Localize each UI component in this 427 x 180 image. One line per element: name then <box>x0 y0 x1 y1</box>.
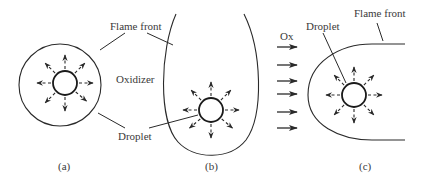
flame-front-envelope <box>308 44 405 140</box>
panel-a <box>19 44 101 126</box>
panel-b <box>164 14 259 155</box>
panel-c <box>277 23 405 140</box>
label-flame-front-ab: Flame front <box>110 21 162 32</box>
droplet-a <box>53 71 77 95</box>
flame-front-sphere <box>19 44 101 126</box>
label-droplet-c: Droplet <box>306 21 340 32</box>
label-droplet-ab: Droplet <box>118 131 152 142</box>
caption-c: (c) <box>359 161 371 172</box>
droplet-combustion-diagram: Flame front Oxidizer Droplet Flame front… <box>0 0 427 180</box>
droplet-c <box>342 83 366 107</box>
caption-b: (b) <box>205 161 218 172</box>
vapor-arrows-c <box>326 67 382 123</box>
label-oxidizer: Oxidizer <box>116 74 154 85</box>
label-ox: Ox <box>280 31 293 42</box>
vapor-arrows-a <box>37 55 93 111</box>
vapor-arrows-b <box>183 82 239 138</box>
oxidizer-flow-arrows <box>277 47 297 128</box>
droplet-b <box>199 98 223 122</box>
leader-lines-c <box>323 23 383 83</box>
diagram-canvas <box>0 0 427 180</box>
caption-a: (a) <box>58 161 70 172</box>
label-flame-front-c: Flame front <box>354 8 406 19</box>
